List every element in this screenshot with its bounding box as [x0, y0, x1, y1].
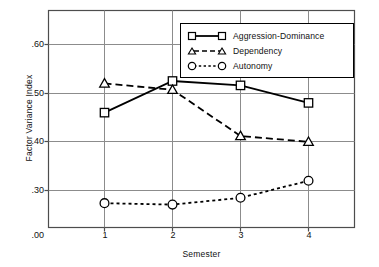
legend-marker-triangle-dashed-icon: [181, 44, 233, 58]
legend-item-autonomy: Autonomy: [181, 58, 353, 73]
legend-item-dependency: Dependency: [181, 43, 353, 58]
chart-legend: Aggression-Dominance Dependency Auto: [180, 23, 354, 78]
legend-marker-square-solid-icon: [181, 29, 233, 43]
legend-label-dependency: Dependency: [233, 46, 282, 56]
x-tick-1: 1: [95, 231, 115, 240]
legend-label-autonomy: Autonomy: [233, 61, 273, 71]
chart-figure: .60 .50 .40 .30 .00 1 2 3 4 Factor Varia…: [0, 0, 379, 267]
y-axis-title: Factor Variance Index: [24, 43, 34, 193]
x-tick-4: 4: [299, 231, 319, 240]
x-tick-2: 2: [163, 231, 183, 240]
legend-item-aggression-dominance: Aggression-Dominance: [181, 28, 353, 43]
legend-marker-circle-dotted-icon: [181, 59, 233, 73]
x-tick-3: 3: [231, 231, 251, 240]
legend-label-aggression-dominance: Aggression-Dominance: [233, 31, 324, 41]
x-axis-title: Semester: [48, 249, 355, 259]
